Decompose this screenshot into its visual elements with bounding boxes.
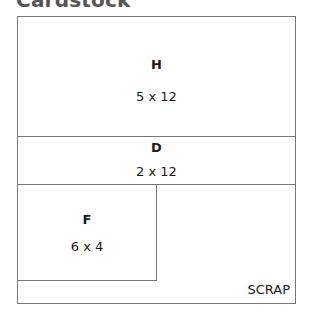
- piece-h-size: 5 x 12: [17, 89, 296, 104]
- piece-f-size: 6 x 4: [17, 239, 157, 254]
- piece-f-right-edge: [156, 184, 157, 281]
- diagram-title: Cardstock: [16, 0, 131, 12]
- piece-d-label: D: [17, 140, 296, 155]
- divider-h-d: [17, 136, 296, 137]
- piece-f-label: F: [17, 212, 157, 227]
- piece-h-label: H: [17, 57, 296, 72]
- piece-f-bottom-edge: [17, 280, 157, 281]
- scrap-label: SCRAP: [240, 282, 290, 297]
- piece-d-size: 2 x 12: [17, 164, 296, 179]
